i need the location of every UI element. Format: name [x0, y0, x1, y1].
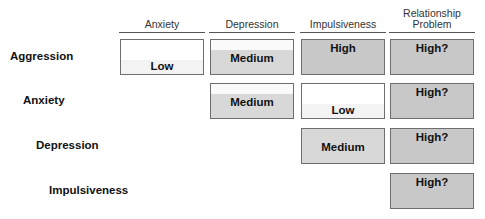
cell-level-label: Medium: [302, 141, 384, 153]
cell-level-label: High?: [391, 131, 473, 143]
cell-level-label: High?: [391, 86, 473, 98]
column-header-impulsiveness: Impulsiveness: [300, 19, 386, 33]
cell-depression-relationship: High?: [390, 128, 474, 164]
cell-anxiety-impulsiveness: Low: [301, 83, 385, 119]
row-label-anxiety: Anxiety: [23, 94, 65, 106]
column-header-anxiety: Anxiety: [119, 19, 205, 33]
row-label-impulsiveness: Impulsiveness: [49, 184, 128, 196]
row-label-aggression: Aggression: [10, 50, 73, 62]
cell-depression-impulsiveness: Medium: [301, 128, 385, 164]
cell-level-label: Medium: [211, 52, 293, 64]
cell-aggression-anxiety: Low: [120, 39, 204, 75]
column-header-label: Depression: [225, 18, 278, 30]
cell-anxiety-relationship: High?: [390, 83, 474, 119]
cell-level-label: High?: [391, 42, 473, 54]
cell-level-label: Low: [302, 104, 384, 116]
cell-aggression-impulsiveness: High: [301, 39, 385, 75]
cell-level-label: High?: [391, 176, 473, 188]
cell-aggression-relationship: High?: [390, 39, 474, 75]
column-header-relationship-problem: Relationship Problem: [389, 8, 475, 33]
column-header-label: Impulsiveness: [310, 18, 377, 30]
column-header-label-line2: Problem: [389, 19, 475, 30]
cell-level-label: Medium: [211, 96, 293, 108]
row-label-depression: Depression: [36, 139, 99, 151]
column-header-label: Anxiety: [145, 18, 179, 30]
cell-anxiety-depression: Medium: [210, 83, 294, 119]
cell-level-label: Low: [121, 60, 203, 72]
column-header-depression: Depression: [209, 19, 295, 33]
cell-level-label: High: [302, 42, 384, 54]
cell-impulsiveness-relationship: High?: [390, 173, 474, 209]
cell-aggression-depression: Medium: [210, 39, 294, 75]
